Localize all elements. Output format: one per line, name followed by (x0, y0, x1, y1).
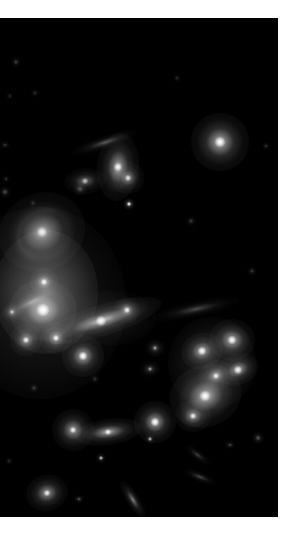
bright-galaxy-lower-center-left-nucleus (79, 352, 87, 360)
galaxy-left-core-faint-nucleus (10, 310, 14, 314)
point-source-mid-upper-nucleus (127, 202, 131, 206)
galaxy-below-core-right (40, 322, 71, 353)
galaxy-east-group-center (193, 354, 239, 398)
point-center-lower-faint (29, 383, 39, 393)
spiral-galaxy-ngc-upper-left-arms (9, 200, 80, 268)
galaxy-cluster-image (0, 18, 278, 517)
galaxy-lower-center-edge-on (73, 414, 144, 449)
galaxy-lower-right-bright (134, 401, 176, 443)
point-below-lower-right (145, 434, 155, 444)
elliptical-galaxy-east-main-nucleus (200, 391, 210, 401)
edge-on-galaxy-center-nucleus (96, 316, 106, 326)
bright-galaxy-upper-right (191, 113, 248, 170)
galaxy-east-group-top (209, 319, 256, 361)
galaxy-east-group-right (213, 348, 263, 392)
bright-galaxy-upper-right-nucleus (215, 137, 225, 147)
arc-galaxy-left-core (0, 281, 66, 324)
streak-bottom-center (116, 478, 149, 517)
mid-bridge-glow (64, 290, 156, 346)
cluster-outer-halo (0, 207, 126, 399)
point-center-lower-b (90, 374, 99, 383)
point-left-mid-faint (0, 141, 10, 148)
galaxy-east-group-right-nucleus (234, 366, 242, 374)
point-bottom-center-left (74, 495, 84, 503)
point-upper-left-faint-c (6, 92, 13, 99)
galaxy-bottom-left (22, 470, 72, 516)
point-below-lower-right-nucleus (148, 437, 152, 441)
galaxy-right-of-edge-on-nucleus (124, 307, 130, 313)
galaxy-below-core-left (10, 324, 41, 355)
galaxy-east-lower-nucleus (190, 413, 196, 419)
arc-streak-east-upper (151, 292, 241, 326)
point-left-upper-galaxy (0, 186, 11, 197)
point-upper-left-faint-b (31, 89, 39, 97)
point-right-lower-a (252, 432, 264, 444)
figure-bottom-margin (0, 517, 289, 538)
galaxy-below-lenticular-nucleus (125, 175, 131, 181)
faint-galaxy-east-far-left-nucleus (153, 346, 157, 350)
faint-galaxy-east-edge-nucleus (148, 367, 152, 371)
point-upper-left-faint-a (11, 57, 20, 66)
galaxy-lower-left-round (52, 409, 94, 451)
galaxy-right-of-edge-on (114, 297, 140, 323)
elliptical-galaxy-east-main (160, 354, 250, 438)
galaxy-east-group-center-nucleus (213, 373, 219, 379)
point-left-mid-faint-b (2, 175, 10, 183)
galaxy-lower-center-edge-on-nucleus (105, 429, 111, 435)
galaxy-below-lenticular (112, 162, 143, 193)
point-right-far (247, 266, 256, 275)
galaxy-east-group-left (176, 327, 228, 375)
galaxy-left-core-faint (2, 302, 23, 323)
streak-right-mid (182, 441, 213, 468)
cluster-core-halo (0, 230, 98, 354)
faint-galaxy-east-edge (140, 361, 161, 377)
galaxy-lower-left-round-nucleus (70, 427, 76, 433)
galaxy-east-group-left-nucleus (198, 347, 206, 355)
galaxy-east-lower (175, 400, 211, 431)
point-lower-center (96, 453, 106, 463)
point-near-spiral-upper (73, 182, 87, 196)
lenticular-galaxy-upper-mid-nucleus (114, 163, 122, 171)
elliptical-cd-galaxy-core-nucleus (37, 304, 49, 316)
edge-on-galaxy-center (37, 288, 165, 354)
point-right-upper-faint (225, 441, 235, 449)
point-mid-left-small (29, 199, 37, 207)
thin-streak-galaxy-upper (71, 125, 139, 158)
sensor-noise-overlay (0, 18, 278, 517)
galaxy-east-group-top-nucleus (228, 336, 236, 344)
galaxy-above-core-left-nucleus (41, 279, 47, 285)
galaxy-left-of-lenticular-nucleus (82, 178, 88, 184)
elliptical-cd-galaxy-core (9, 279, 77, 341)
page-root (0, 0, 289, 538)
bright-galaxy-lower-center-left (62, 335, 104, 377)
galaxy-bottom-left-nucleus (44, 490, 50, 496)
galaxy-below-core-left-nucleus (23, 337, 29, 343)
streak-right-lower (181, 465, 219, 488)
faint-galaxy-east-far-left (145, 339, 166, 357)
spiral-galaxy-ngc-upper-left (0, 178, 99, 286)
galaxy-above-core-left (30, 268, 59, 297)
galaxy-lower-right-bright-nucleus (151, 418, 159, 426)
point-upper-right-faint (173, 74, 181, 82)
spiral-galaxy-ngc-upper-left-nucleus (37, 227, 47, 237)
point-bottom-far-left (5, 457, 13, 465)
lenticular-galaxy-upper-mid (94, 132, 141, 203)
galaxy-below-core-right-nucleus (53, 335, 59, 341)
galaxy-left-of-lenticular (63, 166, 107, 196)
point-right-mid-faint (262, 142, 270, 150)
point-source-mid-upper (123, 198, 134, 209)
east-group-halo (168, 317, 256, 409)
point-lower-center-nucleus (99, 456, 103, 460)
point-right-mid-faint-b (186, 216, 195, 225)
